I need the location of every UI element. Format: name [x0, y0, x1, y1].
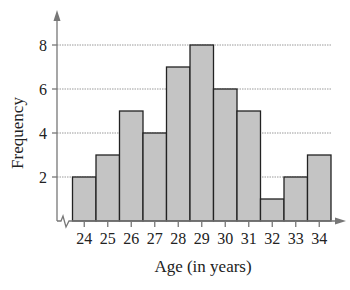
bar-31	[237, 111, 261, 221]
x-axis-arrow-icon	[335, 218, 346, 225]
y-axis-arrow-icon	[54, 10, 61, 21]
bar-34	[308, 155, 332, 221]
bar-27	[143, 133, 167, 221]
x-axis-break-icon	[57, 216, 73, 227]
x-ticks: 2425262728293031323334	[76, 221, 327, 247]
x-tick-label: 33	[288, 230, 304, 247]
y-tick-label: 4	[39, 125, 47, 142]
x-tick-label: 34	[311, 230, 327, 247]
x-tick-label: 29	[194, 230, 210, 247]
x-tick-label: 28	[170, 230, 186, 247]
bar-28	[167, 67, 191, 221]
bar-30	[214, 89, 238, 221]
y-tick-label: 2	[39, 169, 47, 186]
x-tick-label: 31	[241, 230, 257, 247]
y-tick-label: 6	[39, 81, 47, 98]
x-tick-label: 30	[217, 230, 233, 247]
bar-33	[284, 177, 308, 221]
y-axis-title: Frequency	[8, 97, 27, 169]
y-tick-label: 8	[39, 37, 47, 54]
bar-32	[261, 199, 285, 221]
x-tick-label: 26	[123, 230, 139, 247]
bar-24	[73, 177, 97, 221]
x-tick-label: 25	[100, 230, 116, 247]
histogram-chart: 2468 2425262728293031323334 Age (in year…	[0, 0, 350, 290]
y-ticks: 2468	[39, 37, 57, 186]
bar-29	[190, 45, 214, 221]
x-tick-label: 24	[76, 230, 92, 247]
bar-25	[96, 155, 120, 221]
x-tick-label: 27	[147, 230, 163, 247]
x-tick-label: 32	[264, 230, 280, 247]
x-axis-title: Age (in years)	[154, 257, 251, 276]
bar-26	[120, 111, 144, 221]
